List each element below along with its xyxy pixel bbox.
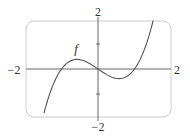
y-min-label: −2: [92, 120, 105, 134]
y-max-label: 2: [95, 5, 101, 19]
function-plot: 2 −2 −2 2 f: [0, 0, 190, 140]
x-max-label: 2: [174, 63, 180, 77]
x-min-label: −2: [8, 63, 21, 77]
function-label-f: f: [74, 41, 80, 56]
function-curve-f: [44, 21, 153, 113]
